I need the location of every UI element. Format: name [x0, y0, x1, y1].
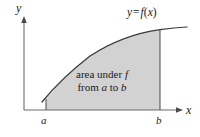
x-axis-label: x: [186, 104, 191, 116]
area-caption: area under f from a to b: [54, 68, 150, 94]
y-axis-arrow-icon: [21, 16, 27, 23]
area-caption-var-b: b: [121, 81, 127, 93]
area-under-curve-figure: y x a b y=f(x) area under f from a to b: [0, 0, 200, 137]
area-caption-line-2-mid: to: [107, 81, 121, 93]
function-equation-label: y=f(x): [127, 7, 157, 19]
area-caption-function-var: f: [125, 68, 128, 80]
area-caption-line-1: area under f: [54, 68, 150, 81]
function-label-paren-close: ): [153, 6, 157, 18]
x-axis-arrow-icon: [176, 107, 183, 113]
upper-limit-label-b: b: [156, 115, 162, 126]
function-label-equals: =: [132, 6, 141, 18]
lower-limit-label-a: a: [41, 115, 47, 126]
area-caption-line-1-text: area under: [76, 68, 125, 80]
y-axis-label: y: [16, 2, 21, 14]
area-caption-line-2: from a to b: [54, 81, 150, 94]
area-caption-line-2-text: from: [77, 81, 101, 93]
